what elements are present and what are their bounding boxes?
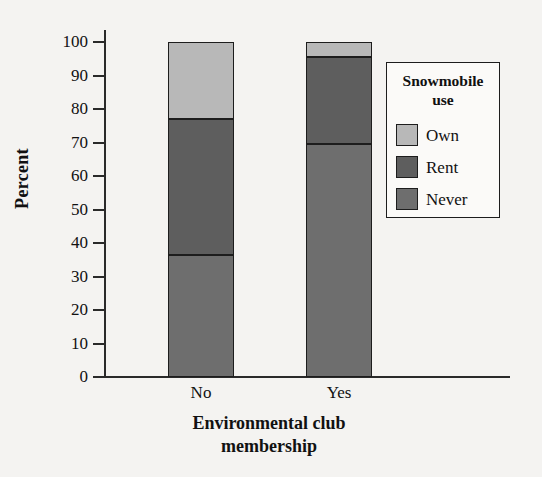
bar-segment-no-rent <box>168 119 234 255</box>
y-tick-label: 70 <box>48 134 88 151</box>
y-axis-tick <box>93 41 105 43</box>
bar-segment-no-never <box>168 255 234 377</box>
y-tick-label: 80 <box>48 100 88 117</box>
legend-items: OwnRentNever <box>387 119 499 215</box>
y-tick-label: 100 <box>48 33 88 50</box>
bar-segment-yes-own <box>306 42 372 57</box>
legend-swatch-never <box>396 188 418 210</box>
y-axis-line <box>104 30 106 378</box>
x-axis-title: Environmental club membership <box>104 412 434 457</box>
bar-segment-yes-rent <box>306 57 372 144</box>
legend-item-own: Own <box>396 119 499 151</box>
stacked-bar-chart: Percent 0102030405060708090100 No Yes En… <box>0 0 542 477</box>
y-tick-label: 90 <box>48 67 88 84</box>
legend-title: Snowmobile use <box>387 72 499 109</box>
y-axis-tick <box>93 343 105 345</box>
y-tick-label: 60 <box>48 167 88 184</box>
y-axis-tick <box>93 209 105 211</box>
y-axis-tick <box>93 175 105 177</box>
y-tick-label: 50 <box>48 201 88 218</box>
legend-swatch-own <box>396 124 418 146</box>
y-axis-tick <box>93 75 105 77</box>
bar-segment-yes-never <box>306 144 372 377</box>
bar-segment-no-own <box>168 42 234 119</box>
y-tick-label: 30 <box>48 268 88 285</box>
y-axis-tick <box>93 309 105 311</box>
y-axis-tick <box>93 142 105 144</box>
y-axis-title: Percent <box>12 119 33 239</box>
legend-item-rent: Rent <box>396 151 499 183</box>
legend-item-never: Never <box>396 183 499 215</box>
y-tick-label: 20 <box>48 301 88 318</box>
legend-label-rent: Rent <box>426 159 458 176</box>
y-axis-tick <box>93 276 105 278</box>
legend-label-own: Own <box>426 127 459 144</box>
legend-title-line2: use <box>387 91 499 110</box>
y-tick-label: 0 <box>48 368 88 385</box>
y-tick-label: 40 <box>48 234 88 251</box>
x-axis-title-line2: membership <box>104 435 434 458</box>
y-tick-label: 10 <box>48 335 88 352</box>
y-axis-tick <box>93 108 105 110</box>
legend-swatch-rent <box>396 156 418 178</box>
y-axis-tick <box>93 242 105 244</box>
legend: Snowmobile use OwnRentNever <box>386 62 500 218</box>
bar-yes <box>306 0 372 477</box>
bar-no <box>168 0 234 477</box>
x-axis-title-line1: Environmental club <box>104 412 434 435</box>
legend-label-never: Never <box>426 191 468 208</box>
legend-title-line1: Snowmobile <box>387 72 499 91</box>
